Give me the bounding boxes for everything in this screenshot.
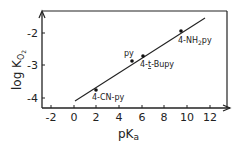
y-tick-label: -2 bbox=[27, 27, 38, 40]
x-tick-label: 10 bbox=[180, 111, 194, 124]
scatter-chart: -2 -3 -4 -2 0 2 4 6 8 10 12 pKa log KO2 … bbox=[0, 0, 241, 143]
y-axis-title: log KO2 bbox=[10, 50, 27, 90]
x-tick-label: -2 bbox=[46, 111, 57, 124]
x-axis-title: pKa bbox=[118, 127, 139, 142]
x-tick-label: 2 bbox=[93, 111, 100, 124]
y-tick-label: -3 bbox=[27, 59, 38, 72]
x-tick-label: 12 bbox=[203, 111, 217, 124]
data-point-4-nh2py bbox=[179, 29, 183, 33]
x-tick-label: 8 bbox=[161, 111, 168, 124]
x-tick-label: 4 bbox=[116, 111, 123, 124]
y-tick-label: -4 bbox=[27, 92, 38, 105]
point-label-4-t-bupy: 4-t-Bupy bbox=[140, 60, 174, 69]
point-label-4-nh2py: 4-NH2py bbox=[178, 36, 212, 46]
data-point-4-cn-py bbox=[94, 88, 98, 92]
data-point-4-t-bupy bbox=[141, 54, 145, 58]
point-label-py: py bbox=[124, 49, 134, 58]
x-tick-label: 0 bbox=[71, 111, 78, 124]
point-label-4-cn-py: 4-CN-py bbox=[92, 93, 125, 102]
x-tick-label: 6 bbox=[139, 111, 146, 124]
data-point-py bbox=[130, 59, 134, 63]
